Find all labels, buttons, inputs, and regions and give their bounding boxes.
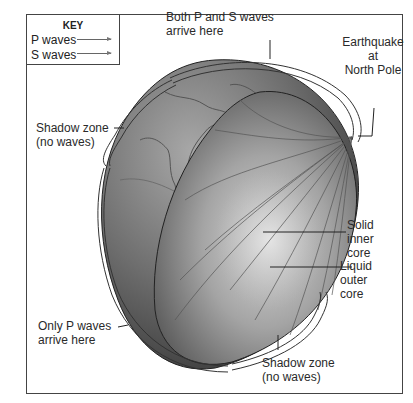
label-line: Only P waves (38, 319, 111, 333)
label-line: (no waves) (262, 370, 335, 384)
label-line: Shadow zone (36, 121, 109, 135)
label-solid-inner-core: Solid inner core (347, 218, 374, 260)
p-wave-arrow-icon (77, 39, 111, 40)
label-line: at (338, 49, 408, 63)
label-shadow-zone-lower: Shadow zone (no waves) (262, 356, 335, 384)
label-only-p-waves: Only P waves arrive here (38, 319, 111, 347)
label-liquid-outer-core: Liquid outer core (340, 259, 372, 301)
label-line: Both P and S waves (166, 10, 274, 24)
label-shadow-zone-upper: Shadow zone (no waves) (36, 121, 109, 149)
label-line: inner (347, 232, 374, 246)
label-line: Liquid (340, 259, 372, 273)
s-wave-arrow-icon (77, 53, 111, 54)
label-line: Shadow zone (262, 356, 335, 370)
legend-title: KEY (27, 20, 119, 31)
label-line: Earthquake (338, 35, 408, 49)
label-line: arrive here (38, 333, 111, 347)
label-line: (no waves) (36, 135, 109, 149)
label-line: core (340, 287, 372, 301)
legend-item-s-waves: S waves (31, 49, 76, 62)
label-line: core (347, 246, 374, 260)
label-both-waves: Both P and S waves arrive here (166, 10, 274, 38)
label-line: Solid (347, 218, 374, 232)
label-line: North Pole (338, 63, 408, 77)
label-line: arrive here (166, 24, 274, 38)
legend-item-p-waves: P waves (31, 34, 76, 47)
label-earthquake: Earthquake at North Pole (338, 35, 408, 77)
label-line: outer (340, 273, 372, 287)
